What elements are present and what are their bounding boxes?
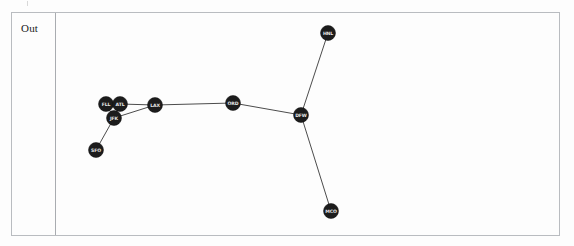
graph-node-label: SFO: [91, 148, 101, 153]
graph-node-label: MCO: [325, 209, 337, 214]
graph-node[interactable]: ATL: [113, 97, 128, 112]
output-prompt-label: Out: [21, 22, 38, 34]
graph-node-label: LAX: [150, 103, 160, 108]
output-prompt-gutter: Out: [12, 13, 56, 235]
graph-node[interactable]: DFW: [294, 108, 309, 123]
graph-node[interactable]: ORD: [226, 96, 241, 111]
network-graph-plot: FLLATLJFKSFOLAXORDDFWHNLMCO: [56, 13, 559, 235]
graph-edge: [301, 33, 328, 115]
graph-node-label: FLL: [102, 102, 111, 107]
graph-node-label: ORD: [228, 101, 239, 106]
graph-edge: [155, 103, 233, 105]
graph-node[interactable]: HNL: [321, 26, 336, 41]
graph-node-label: JFK: [109, 116, 119, 121]
scan-artifact: [27, 1, 28, 6]
graph-node-label: ATL: [116, 102, 125, 107]
graph-node-layer: FLLATLJFKSFOLAXORDDFWHNLMCO: [89, 26, 339, 219]
page-background: Out FLLATLJFKSFOLAXORDDFWHNLMCO: [0, 0, 574, 246]
graph-node[interactable]: JFK: [107, 111, 122, 126]
network-graph-svg: FLLATLJFKSFOLAXORDDFWHNLMCO: [56, 13, 559, 235]
graph-edge-layer: [96, 33, 331, 211]
graph-node-label: DFW: [295, 113, 307, 118]
graph-node[interactable]: SFO: [89, 143, 104, 158]
graph-edge: [301, 115, 331, 211]
notebook-output-cell: Out FLLATLJFKSFOLAXORDDFWHNLMCO: [11, 12, 560, 236]
graph-node-label: HNL: [323, 31, 333, 36]
graph-node[interactable]: MCO: [324, 204, 339, 219]
graph-node[interactable]: LAX: [148, 98, 163, 113]
graph-node[interactable]: FLL: [99, 97, 114, 112]
graph-edge: [233, 103, 301, 115]
